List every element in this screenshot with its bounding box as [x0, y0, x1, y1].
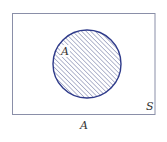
set-a-label: A — [60, 45, 69, 58]
diagram-caption: A — [79, 119, 88, 132]
universal-set-label: S — [146, 100, 154, 113]
venn-diagram: A S A — [0, 0, 167, 142]
